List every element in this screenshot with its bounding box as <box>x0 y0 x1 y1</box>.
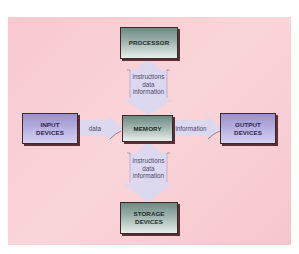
memory-label: MEMORY <box>133 125 161 133</box>
input-label-line1: INPUT <box>40 121 59 129</box>
input-label-line2: DEVICES <box>36 129 64 137</box>
output-devices-node: OUTPUT DEVICES <box>220 113 276 144</box>
output-label-line2: DEVICES <box>234 129 262 137</box>
edge-label-processor-memory: instructions data information <box>130 73 167 96</box>
edge-label-line: data <box>130 165 167 173</box>
storage-label-line2: DEVICES <box>135 218 163 226</box>
edge-label-input-memory: data <box>84 125 106 133</box>
storage-devices-node: STORAGE DEVICES <box>120 202 178 234</box>
edge-label-line: data <box>130 81 167 89</box>
input-devices-node: INPUT DEVICES <box>22 113 78 144</box>
edge-label-line: information <box>130 172 167 180</box>
edge-label-memory-output: information <box>174 125 208 133</box>
storage-label-line1: STORAGE <box>133 210 164 218</box>
edge-label-line: information <box>130 88 167 96</box>
memory-node: MEMORY <box>122 115 173 142</box>
processor-label: PROCESSOR <box>129 39 169 47</box>
edge-label-line: instructions <box>130 73 167 81</box>
processor-node: PROCESSOR <box>120 27 178 59</box>
edge-label-line: instructions <box>130 157 167 165</box>
edge-label-memory-storage: instructions data information <box>130 157 167 180</box>
output-label-line1: OUTPUT <box>235 121 261 129</box>
